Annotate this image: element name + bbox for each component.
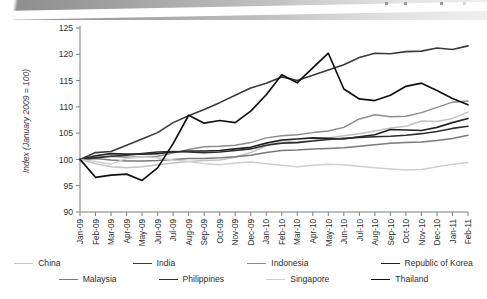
x-axis-tick-label: Jun-10 [340,219,349,244]
scan-speck [385,2,388,5]
chart-legend: ChinaIndiaIndonesiaRepublic of KoreaMala… [0,255,487,299]
legend-label: India [157,259,176,268]
legend-row: MalaysiaPhilippinesSingaporeThailand [0,271,487,287]
legend-item-thailand: Thailand [371,271,428,287]
legend-label: Thailand [395,275,428,284]
y-axis-tick-label: 100 [59,155,74,165]
y-axis-tick-label: 115 [59,76,73,86]
x-axis-tick-label: Jan-10 [262,219,271,244]
x-axis-tick-label: Nov-10 [418,219,427,246]
legend-swatch-icon [371,279,390,280]
legend-label: Singapore [290,275,329,284]
x-axis-tick-label: Nov-09 [231,219,240,246]
x-axis-tick-label: May-09 [138,219,147,247]
legend-swatch-icon [159,279,178,280]
x-axis-tick-label: Oct-09 [216,219,225,244]
legend-label: Republic of Korea [405,259,473,268]
series-line-singapore [80,157,468,170]
x-axis-tick-label: Feb-10 [278,219,287,245]
legend-row: ChinaIndiaIndonesiaRepublic of Korea [0,255,487,271]
chart-plot: 9095100105110115120125Jan-09Feb-09Mar-09… [0,20,487,255]
legend-item-china: China [14,255,60,271]
legend-item-india: India [133,255,176,271]
legend-item-indonesia: Indonesia [247,255,308,271]
legend-item-malaysia: Malaysia [59,271,117,287]
x-axis-tick-label: Feb-11 [464,219,473,245]
x-axis-tick-label: Jan-09 [76,219,85,244]
legend-item-singapore: Singapore [266,271,329,287]
scan-speck [463,2,466,5]
y-axis-tick-label: 90 [63,207,73,217]
x-axis-tick-label: Apr-10 [309,219,318,244]
legend-label: Philippines [183,275,225,284]
legend-label: Malaysia [83,275,117,284]
legend-swatch-icon [381,263,400,264]
legend-label: Indonesia [271,259,308,268]
legend-item-republic-of-korea: Republic of Korea [381,255,473,271]
legend-swatch-icon [133,263,152,264]
legend-label: China [38,259,60,268]
x-axis-tick-label: Sep-10 [387,219,396,246]
y-axis-tick-label: 120 [59,49,74,59]
x-axis-tick-label: Aug-10 [371,219,380,246]
x-axis-tick-label: Oct-10 [402,219,411,244]
scan-speck [404,2,407,5]
band-shear [0,2,487,20]
x-axis-tick-label: May-10 [325,219,334,247]
x-axis-tick-label: Mar-10 [293,219,302,245]
legend-swatch-icon [14,263,33,264]
y-axis-tick-label: 125 [59,23,74,33]
x-axis-tick-label: Jul-10 [356,219,365,242]
y-axis-tick-label: 110 [59,102,73,112]
x-axis-tick-label: Aug-09 [185,219,194,246]
legend-swatch-icon [247,263,266,264]
x-axis-tick-label: Dec-09 [247,219,256,246]
x-axis-tick-label: Jul-09 [169,219,178,242]
scan-speck [440,2,443,5]
line-chart: Index (January 2009 = 100) 9095100105110… [0,20,487,255]
scanned-page-artifact [0,0,487,20]
legend-swatch-icon [59,279,78,280]
x-axis-tick-label: Mar-09 [107,219,116,245]
legend-swatch-icon [266,279,285,280]
y-axis-tick-label: 105 [59,128,74,138]
x-axis-tick-label: Dec-10 [433,219,442,246]
y-axis-tick-label: 95 [63,181,73,191]
x-axis-tick-label: Sep-09 [200,219,209,246]
x-axis-tick-label: Apr-09 [123,219,132,244]
x-axis-tick-label: Feb-09 [92,219,101,245]
x-axis-tick-label: Jun-09 [154,219,163,244]
x-axis-tick-label: Jan-11 [449,219,458,244]
legend-item-philippines: Philippines [159,271,225,287]
